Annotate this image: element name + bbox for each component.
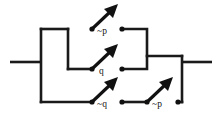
circuit-diagram-canvas: ~p q ~q ~p [0, 0, 221, 124]
switch-not-p-bottom-terminal-dot [175, 99, 180, 104]
switch-not-q-bottom[interactable]: ~q [89, 77, 124, 109]
switch-q-middle-label: q [99, 66, 104, 76]
switch-not-p-top-terminal-dot [119, 26, 124, 31]
switch-q-middle[interactable]: q [89, 44, 124, 76]
switch-not-p-top[interactable]: ~p [89, 4, 124, 36]
switch-not-p-top-label: ~p [97, 26, 107, 36]
switching-circuit-svg: ~p q ~q ~p [0, 0, 221, 124]
switch-not-q-bottom-label: ~q [97, 99, 107, 109]
inner-block-right-edge [122, 29, 147, 69]
switch-not-p-bottom[interactable]: ~p [144, 77, 180, 109]
switch-q-middle-terminal-dot [119, 66, 124, 71]
switch-not-p-bottom-label: ~p [152, 99, 162, 109]
switch-not-q-bottom-terminal-dot [119, 99, 124, 104]
